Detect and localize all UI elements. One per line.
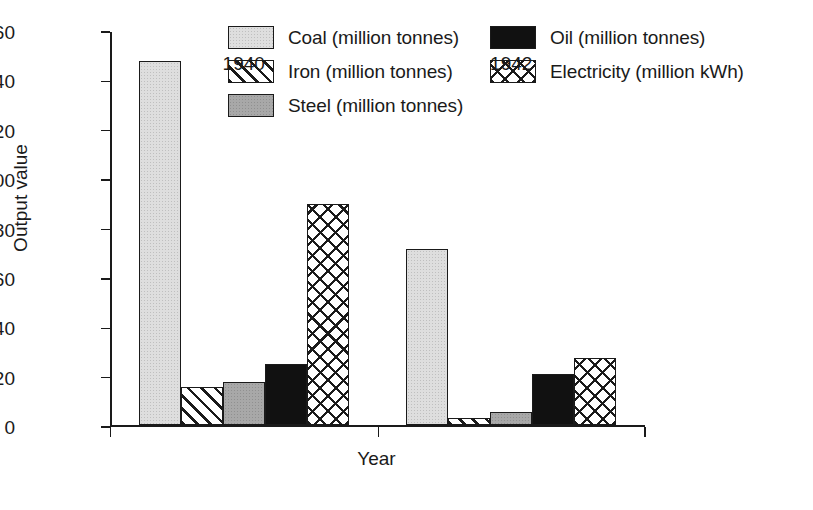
y-axis-tick-label: 20 [0, 368, 15, 387]
y-axis-tick [101, 426, 110, 427]
y-axis-tick [101, 229, 110, 230]
x-axis-tick [644, 427, 645, 437]
y-axis-tick-label: 120 [0, 121, 15, 140]
y-axis-tick [101, 278, 110, 279]
y-axis-tick-label: 140 [0, 72, 15, 91]
y-axis-tick-label: 0 [0, 418, 15, 437]
bar-chart: Coal (million tonnes) Oil (million tonne… [0, 0, 813, 510]
plot-area: 020406080100120140160 19401942 [110, 32, 645, 427]
y-axis-tick [101, 377, 110, 378]
bar-electricity-1940 [307, 204, 349, 425]
x-axis-tick-label-1940: 1940 [223, 54, 265, 73]
bar-steel-1940 [223, 382, 265, 425]
x-axis-tick [378, 427, 379, 437]
y-axis-tick [101, 130, 110, 131]
bar-oil-1942 [532, 374, 574, 426]
x-axis-tick-origin [110, 427, 111, 437]
bar-steel-1942 [490, 412, 532, 426]
y-axis-tick-label: 100 [0, 171, 15, 190]
y-axis-tick-label: 160 [0, 23, 15, 42]
y-axis-line [110, 32, 112, 427]
bar-electricity-1942 [574, 358, 616, 426]
y-axis-tick-label: 60 [0, 269, 15, 288]
bar-iron-1940 [181, 387, 223, 425]
x-axis-title-text: Year [357, 448, 395, 469]
bar-iron-1942 [448, 418, 490, 425]
bar-coal-1942 [406, 249, 448, 426]
y-axis-tick [101, 328, 110, 329]
y-axis-tick [101, 31, 110, 32]
y-axis-tick-label: 80 [0, 220, 15, 239]
bar-oil-1940 [265, 364, 307, 426]
y-axis-tick [101, 81, 110, 82]
x-axis-ticks [110, 427, 645, 437]
y-axis-tick [101, 179, 110, 180]
bar-coal-1940 [139, 61, 181, 425]
x-axis-tick-label-1942: 1942 [490, 54, 532, 73]
x-axis-title: Year [0, 448, 813, 470]
y-axis-tick-label: 40 [0, 319, 15, 338]
